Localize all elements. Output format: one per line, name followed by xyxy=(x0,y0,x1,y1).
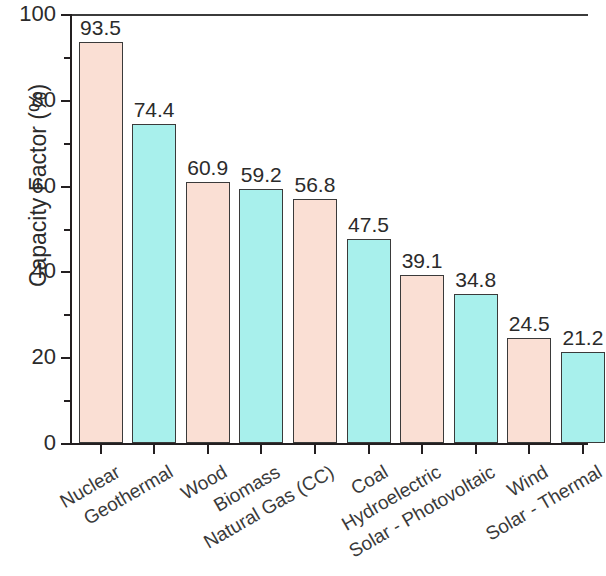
y-axis-tick-minor xyxy=(64,400,70,402)
x-axis-tick-mark xyxy=(528,444,530,454)
bar[interactable]: 74.4 xyxy=(132,124,176,443)
x-axis-line xyxy=(70,443,588,445)
y-axis-line xyxy=(70,14,72,444)
x-axis-tick-mark xyxy=(153,444,155,454)
y-axis-tick-minor xyxy=(64,229,70,231)
plot-area: 020406080100 93.574.460.959.256.847.539.… xyxy=(70,14,588,443)
bar-value-label: 21.2 xyxy=(562,326,603,350)
x-axis-tick-mark xyxy=(421,444,423,454)
bar-value-label: 24.5 xyxy=(509,312,550,336)
y-axis-tick-mark xyxy=(61,271,70,273)
bar[interactable]: 93.5 xyxy=(79,42,123,443)
y-axis-tick-label: 80 xyxy=(32,87,56,113)
y-axis-tick-label: 40 xyxy=(32,258,56,284)
bar[interactable]: 56.8 xyxy=(293,199,337,443)
y-axis-tick-mark xyxy=(61,357,70,359)
bar[interactable]: 34.8 xyxy=(454,294,498,443)
bar[interactable]: 60.9 xyxy=(186,182,230,443)
bar[interactable]: 21.2 xyxy=(561,352,605,443)
y-axis-tick-mark xyxy=(61,100,70,102)
bar[interactable]: 24.5 xyxy=(507,338,551,443)
x-axis-tick-mark xyxy=(582,444,584,454)
y-axis-tick-label: 20 xyxy=(32,344,56,370)
y-axis-tick-mark xyxy=(61,14,70,16)
bar[interactable]: 47.5 xyxy=(347,239,391,443)
y-axis-tick-label: 60 xyxy=(32,173,56,199)
plot-top-border xyxy=(70,14,588,16)
y-axis-tick-minor xyxy=(64,314,70,316)
y-axis-tick-label: 0 xyxy=(44,430,56,456)
bar-value-label: 34.8 xyxy=(455,268,496,292)
x-axis-tick-mark xyxy=(260,444,262,454)
bar-value-label: 74.4 xyxy=(134,98,175,122)
bar-value-label: 47.5 xyxy=(348,213,389,237)
bar[interactable]: 59.2 xyxy=(239,189,283,443)
x-axis-tick-mark xyxy=(100,444,102,454)
y-axis-tick-minor xyxy=(64,143,70,145)
y-axis-tick-mark xyxy=(61,186,70,188)
bar-value-label: 93.5 xyxy=(80,16,121,40)
x-axis-tick-mark xyxy=(314,444,316,454)
y-axis-tick-label: 100 xyxy=(19,1,56,27)
bar[interactable]: 39.1 xyxy=(400,275,444,443)
bar-value-label: 56.8 xyxy=(294,173,335,197)
x-axis-tick-mark xyxy=(368,444,370,454)
y-axis-tick-mark xyxy=(61,443,70,445)
x-axis-tick-mark xyxy=(207,444,209,454)
y-axis-tick-minor xyxy=(64,57,70,59)
bar-value-label: 59.2 xyxy=(241,163,282,187)
x-axis-tick-mark xyxy=(475,444,477,454)
bar-value-label: 39.1 xyxy=(402,249,443,273)
bar-value-label: 60.9 xyxy=(187,156,228,180)
